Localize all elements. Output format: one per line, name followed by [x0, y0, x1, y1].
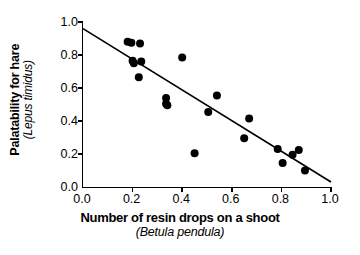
- data-point: [295, 146, 303, 154]
- data-point: [289, 151, 297, 159]
- data-point: [136, 39, 144, 47]
- data-points-group: [124, 38, 309, 175]
- x-axis-title-species: (Betula pendula): [0, 225, 360, 240]
- data-point: [213, 91, 221, 99]
- plot-area: [82, 22, 331, 188]
- x-axis-title-main: Number of resin drops on a shoot: [0, 210, 360, 225]
- plot-canvas: [81, 20, 333, 189]
- data-point: [163, 101, 171, 109]
- y-tick-mark: [78, 87, 83, 89]
- regression-line: [83, 29, 331, 182]
- y-tick-label: 0.2: [42, 147, 78, 161]
- data-point: [178, 53, 186, 61]
- y-axis-title-main: Palatability for hare: [8, 44, 22, 156]
- x-axis-title: Number of resin drops on a shoot (Betula…: [0, 210, 360, 240]
- x-axis-tick-labels: 0.00.20.40.60.81.0: [0, 192, 360, 210]
- data-point: [274, 145, 282, 153]
- scatter-plot-figure: Palatability for hare (Lepus timidus) 0.…: [0, 0, 360, 255]
- y-axis-title-species: (Lepus timidus): [22, 44, 35, 156]
- x-tick-label: 0.4: [161, 192, 201, 206]
- x-tick-label: 0.8: [260, 192, 300, 206]
- data-point: [137, 58, 145, 66]
- y-tick-label: 0.4: [42, 114, 78, 128]
- x-tick-label: 0.6: [211, 192, 251, 206]
- x-tick-label: 1.0: [310, 192, 350, 206]
- data-point: [301, 167, 309, 175]
- y-tick-label: 0.6: [42, 81, 78, 95]
- data-point: [245, 115, 253, 123]
- y-tick-mark: [78, 54, 83, 56]
- y-tick-label: 1.0: [42, 15, 78, 29]
- data-point: [279, 159, 287, 167]
- y-tick-mark: [78, 120, 83, 122]
- data-point: [130, 59, 138, 67]
- y-tick-mark: [78, 21, 83, 23]
- data-point: [191, 149, 199, 157]
- x-tick-label: 0.0: [62, 192, 102, 206]
- x-tick-label: 0.2: [112, 192, 152, 206]
- data-point: [204, 108, 212, 116]
- y-tick-mark: [78, 153, 83, 155]
- data-point: [127, 39, 135, 47]
- y-tick-label: 0.8: [42, 48, 78, 62]
- data-point: [240, 134, 248, 142]
- data-point: [135, 73, 143, 81]
- trendline-segment: [83, 29, 331, 182]
